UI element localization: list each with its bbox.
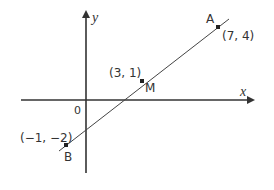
point-m-coords: (3, 1): [109, 66, 141, 80]
point-b-coords: (−1, −2): [20, 131, 72, 145]
point-m-label: M: [145, 81, 155, 95]
origin-label: 0: [74, 104, 81, 117]
point-a-label: A: [206, 12, 215, 26]
point-b-label: B: [64, 150, 72, 164]
point-a-coords: (7, 4): [222, 29, 254, 43]
x-axis-label: x: [239, 84, 247, 99]
line-segment-ab: [59, 19, 229, 151]
coordinate-diagram: y x 0 A (7, 4) M (3, 1) B (−1, −2): [0, 0, 274, 190]
point-a-marker: [216, 25, 220, 29]
y-axis-label: y: [90, 10, 99, 25]
